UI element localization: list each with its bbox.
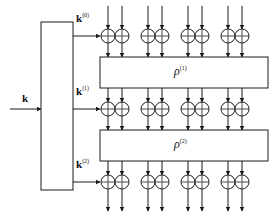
round-key-label-1: k(1) [76,85,89,97]
xor-gate-1-6 [221,102,235,116]
xor-gate-0-2 [141,29,155,43]
xor-gate-0-3 [155,29,169,43]
xor-gate-1-0 [101,102,115,116]
round-function-label-2: ρ(2) [174,137,187,152]
xor-gate-0-4 [181,29,195,43]
xor-gate-0-1 [115,29,129,43]
xor-gate-2-3 [155,175,169,189]
key-schedule-box [41,22,73,190]
xor-gate-0-6 [221,29,235,43]
xor-gate-1-3 [155,102,169,116]
xor-gate-2-5 [195,175,209,189]
xor-gate-2-0 [101,175,115,189]
xor-gate-1-2 [141,102,155,116]
key-input-label: k [22,92,28,104]
xor-gate-1-4 [181,102,195,116]
cipher-diagram: k k(0) k(1) k(2) ρ(1) ρ(2) [0,0,275,216]
diagram-canvas [0,0,275,216]
xor-gate-0-5 [195,29,209,43]
xor-gate-2-1 [115,175,129,189]
xor-gate-0-0 [101,29,115,43]
xor-gate-0-7 [235,29,249,43]
xor-gate-2-2 [141,175,155,189]
xor-gate-2-4 [181,175,195,189]
xor-gate-1-7 [235,102,249,116]
round-key-label-2: k(2) [76,158,89,170]
xor-gate-2-7 [235,175,249,189]
round-key-label-0: k(0) [76,12,89,24]
xor-gate-layer [101,29,249,189]
xor-gate-2-6 [221,175,235,189]
round-function-label-1: ρ(1) [174,64,187,79]
xor-gate-1-5 [195,102,209,116]
xor-gate-1-1 [115,102,129,116]
